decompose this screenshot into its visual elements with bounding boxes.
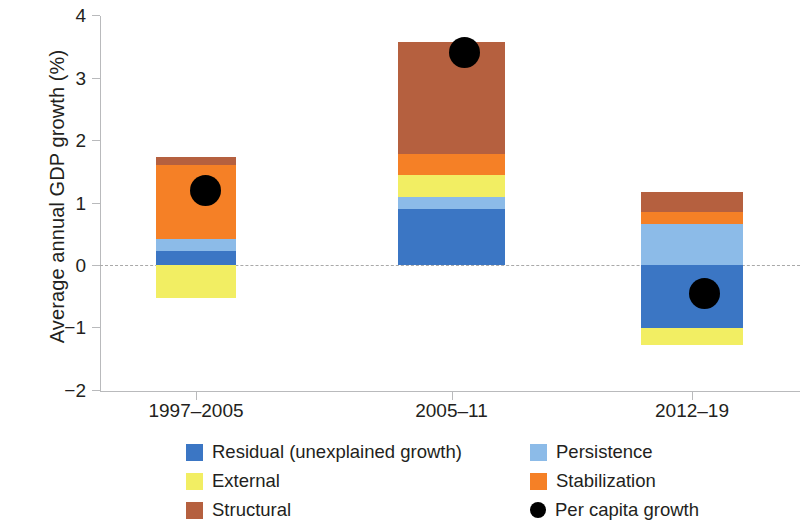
- legend-item[interactable]: Persistence: [530, 443, 653, 462]
- bar-segment[interactable]: [156, 251, 236, 265]
- bar-segment[interactable]: [156, 239, 236, 251]
- per-capita-growth-dot[interactable]: [190, 175, 221, 206]
- y-tick-label: −2: [36, 390, 86, 391]
- bar-group[interactable]: [641, 0, 743, 376]
- x-tick-label: 2012–19: [592, 400, 792, 422]
- legend-label: Per capita growth: [555, 501, 699, 520]
- legend-swatch-icon: [186, 502, 203, 519]
- y-tick-label: 0: [36, 265, 86, 266]
- bar-segment[interactable]: [641, 224, 743, 265]
- legend-label: Residual (unexplained growth): [212, 443, 462, 462]
- x-tick-label: 2005–11: [352, 400, 552, 422]
- chart-legend: Residual (unexplained growth)Persistence…: [186, 440, 786, 526]
- y-tick-mark: [92, 265, 100, 266]
- y-tick-label: 1: [36, 203, 86, 204]
- legend-item[interactable]: Structural: [186, 501, 291, 520]
- y-tick-label: 3: [36, 78, 86, 79]
- legend-dot-icon: [530, 502, 546, 518]
- legend-item[interactable]: Residual (unexplained growth): [186, 443, 462, 462]
- y-tick-label-text: −1: [64, 317, 86, 339]
- legend-label: Persistence: [556, 443, 653, 462]
- legend-label: Stabilization: [556, 472, 656, 491]
- y-tick-label-text: 4: [75, 5, 86, 27]
- y-tick-label-text: 2: [75, 130, 86, 152]
- y-tick-label-text: 1: [75, 193, 86, 215]
- y-tick-label-text: 0: [75, 255, 86, 277]
- y-tick-label: 2: [36, 140, 86, 141]
- y-tick-label: 4: [36, 15, 86, 16]
- legend-label: Structural: [212, 501, 291, 520]
- per-capita-growth-dot[interactable]: [689, 278, 720, 309]
- legend-swatch-icon: [530, 444, 547, 461]
- x-tick-mark: [692, 391, 693, 400]
- y-tick-mark: [92, 327, 100, 328]
- bar-segment[interactable]: [641, 328, 743, 345]
- bar-segment[interactable]: [641, 192, 743, 212]
- x-axis-line: [100, 391, 800, 392]
- bar-segment[interactable]: [398, 154, 505, 175]
- x-tick-mark: [452, 391, 453, 400]
- bar-segment[interactable]: [398, 175, 505, 197]
- legend-item[interactable]: Per capita growth: [530, 501, 699, 520]
- chart-figure: Average annual GDP growth (%) 43210−1−2 …: [0, 0, 806, 528]
- legend-item[interactable]: Stabilization: [530, 472, 656, 491]
- bar-segment[interactable]: [641, 212, 743, 224]
- x-tick-label: 1997–2005: [96, 400, 296, 422]
- bar-segment[interactable]: [156, 265, 236, 298]
- y-tick-mark: [92, 15, 100, 16]
- per-capita-growth-dot[interactable]: [449, 37, 480, 68]
- legend-label: External: [212, 472, 280, 491]
- y-tick-label: −1: [36, 327, 86, 328]
- legend-swatch-icon: [530, 473, 547, 490]
- x-tick-mark: [196, 391, 197, 400]
- y-tick-mark: [92, 140, 100, 141]
- y-tick-label-text: 3: [75, 68, 86, 90]
- legend-swatch-icon: [186, 444, 203, 461]
- y-axis-line: [100, 16, 101, 392]
- y-tick-mark: [92, 203, 100, 204]
- y-tick-mark: [92, 390, 100, 391]
- bar-segment[interactable]: [398, 197, 505, 209]
- legend-swatch-icon: [186, 473, 203, 490]
- y-tick-mark: [92, 78, 100, 79]
- legend-item[interactable]: External: [186, 472, 280, 491]
- bar-segment[interactable]: [398, 209, 505, 265]
- bar-segment[interactable]: [156, 157, 236, 165]
- y-tick-label-text: −2: [64, 380, 86, 402]
